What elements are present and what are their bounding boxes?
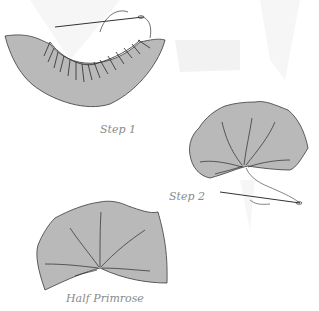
diagram-canvas: [0, 0, 319, 311]
step-1-fabric: [5, 35, 165, 107]
needle-icon-2: [220, 168, 302, 204]
step-2-label: Step 2: [169, 190, 205, 203]
half-primrose-label: Half Primrose: [66, 292, 144, 305]
half-primrose-figure: [37, 201, 167, 290]
step-1-label: Step 1: [100, 123, 136, 136]
half-primrose-fabric: [37, 201, 167, 290]
